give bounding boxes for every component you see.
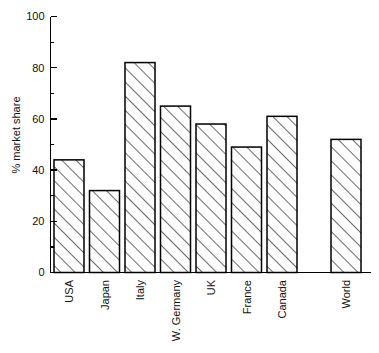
y-tick-label: 0 <box>38 266 44 278</box>
x-tick-label: Japan <box>99 280 111 310</box>
bars-group <box>54 63 361 273</box>
bar-japan[interactable] <box>90 191 120 273</box>
bar-hatch-fill <box>125 63 155 273</box>
y-axis-title-text: % market share <box>10 96 22 173</box>
bar-hatch-fill <box>267 116 297 272</box>
y-tick-label: 40 <box>32 164 44 176</box>
bar-hatch-fill <box>196 124 226 272</box>
bar-uk[interactable] <box>196 124 226 272</box>
bar-w-germany[interactable] <box>161 106 191 272</box>
x-tick-label: World <box>340 280 352 309</box>
bar-italy[interactable] <box>125 63 155 273</box>
bar-hatch-fill <box>161 106 191 272</box>
x-tick-label: Canada <box>276 279 288 318</box>
y-tick-label: 80 <box>32 62 44 74</box>
y-tick-label: 20 <box>32 215 44 227</box>
bar-hatch-fill <box>90 191 120 273</box>
bar-hatch-fill <box>54 160 84 273</box>
bar-hatch-fill <box>331 139 361 272</box>
bar-france[interactable] <box>232 147 262 272</box>
y-axis-title: % market share <box>10 96 22 173</box>
bar-chart-figure: 020406080100 USAJapanItalyW. GermanyUKFr… <box>0 0 379 353</box>
bar-usa[interactable] <box>54 160 84 273</box>
chart-canvas: 020406080100 USAJapanItalyW. GermanyUKFr… <box>0 0 379 353</box>
x-axis-tick-labels: USAJapanItalyW. GermanyUKFranceCanadaWor… <box>63 279 352 341</box>
y-tick-label: 100 <box>26 10 44 22</box>
x-tick-label: UK <box>205 279 217 295</box>
x-tick-label: W. Germany <box>170 280 182 342</box>
y-tick-label: 60 <box>32 113 44 125</box>
bar-canada[interactable] <box>267 116 297 272</box>
x-tick-label: Italy <box>134 280 146 301</box>
y-axis-tick-labels: 020406080100 <box>26 10 44 278</box>
bar-hatch-fill <box>232 147 262 272</box>
x-tick-label: USA <box>63 279 75 302</box>
bar-world[interactable] <box>331 139 361 272</box>
x-tick-label: France <box>241 280 253 314</box>
